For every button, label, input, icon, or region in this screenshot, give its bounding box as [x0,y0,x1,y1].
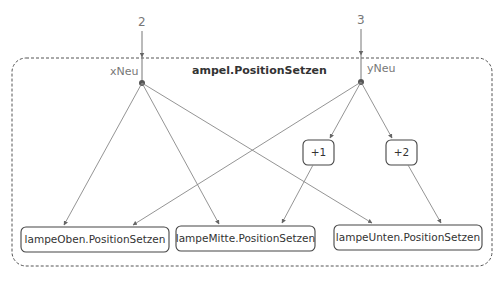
edge-yneu-plus1 [330,82,361,138]
edge-xneu-oben [64,83,142,225]
target-lampe-mitte: lampeMitte.PositionSetzen [176,226,315,251]
edge-yneu-plus2 [361,82,392,138]
input-value-y: 3 [357,13,365,27]
method-title: ampel.PositionSetzen [192,64,327,77]
diagram-canvas: ampel.PositionSetzen 2 xNeu 3 yNeu +1 +2… [0,0,504,281]
edge-plus1-mitte [282,165,313,223]
target-lampe-mitte-label: lampeMitte.PositionSetzen [176,232,315,244]
operator-plus2: +2 [386,140,417,165]
edge-plus2-unten [408,165,441,223]
param-label-yneu: yNeu [367,62,395,75]
target-lampe-oben-label: lampeOben.PositionSetzen [25,233,166,245]
edge-xneu-mitte [142,83,219,224]
operator-plus2-label: +2 [394,146,409,158]
target-lampe-unten-label: lampeUnten.PositionSetzen [336,231,480,243]
target-lampe-unten: lampeUnten.PositionSetzen [334,225,482,250]
operator-plus1-label: +1 [311,146,326,158]
operator-plus1: +1 [303,140,334,165]
edge-xneu-unten [142,83,372,223]
target-lampe-oben: lampeOben.PositionSetzen [21,227,169,252]
input-value-x: 2 [138,15,146,29]
param-label-xneu: xNeu [110,65,138,78]
